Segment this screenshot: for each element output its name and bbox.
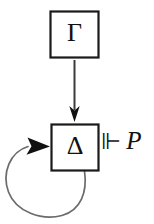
diagram-canvas: Γ Δ ⊩ P — [0, 0, 154, 224]
edge-gamma-to-delta — [69, 60, 79, 122]
diagram-figure: Γ Δ ⊩ P — [0, 0, 154, 224]
node-delta-label: Δ — [67, 131, 84, 160]
edge-delta-self-loop-arrowhead — [27, 138, 51, 155]
judgment-expression: ⊩ P — [101, 127, 142, 155]
node-gamma: Γ — [51, 12, 99, 58]
judgment-formula-label: P — [125, 127, 141, 154]
forces-turnstile-icon: ⊩ — [101, 129, 121, 154]
node-gamma-label: Γ — [67, 18, 82, 47]
node-delta: Δ — [52, 125, 99, 171]
